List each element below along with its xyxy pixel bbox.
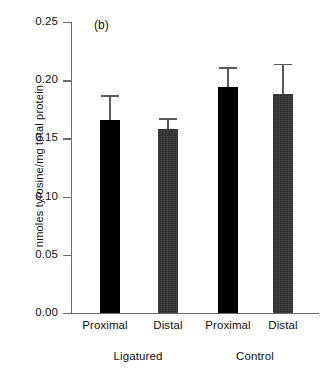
y-tick-label-4: 0.05 xyxy=(0,248,58,260)
figure-panel-b: nmoles tyrosine/mg total protein (b) 0.2… xyxy=(0,0,330,381)
y-tick-label-1: 0.20 xyxy=(0,73,58,85)
y-tick-label-3: 0.10 xyxy=(0,190,58,202)
bar-ligatured-distal xyxy=(158,129,178,313)
plot-area xyxy=(71,22,319,313)
error-bar-stem-3 xyxy=(282,65,283,94)
bar-control-proximal xyxy=(218,87,238,313)
error-bar-cap-2 xyxy=(219,67,237,68)
error-bar-cap-3 xyxy=(274,64,292,65)
error-bar-stem-0 xyxy=(109,97,110,120)
y-tick-label-5: 0.00 xyxy=(0,306,58,318)
bar-ligatured-proximal xyxy=(100,120,120,313)
x-group-label-ligatured: Ligatured xyxy=(78,350,198,362)
error-bar-stem-2 xyxy=(227,69,228,88)
y-tick-label-2: 0.15 xyxy=(0,131,58,143)
y-tick-mark-5 xyxy=(63,313,72,314)
bar-control-distal xyxy=(273,94,293,313)
x-category-label-3: Distal xyxy=(238,319,328,331)
y-tick-label-0: 0.25 xyxy=(0,15,58,27)
error-bar-stem-1 xyxy=(167,120,168,129)
x-axis-line xyxy=(71,313,319,314)
x-group-label-control: Control xyxy=(195,350,315,362)
error-bar-cap-1 xyxy=(159,118,177,119)
error-bar-cap-0 xyxy=(101,95,119,96)
